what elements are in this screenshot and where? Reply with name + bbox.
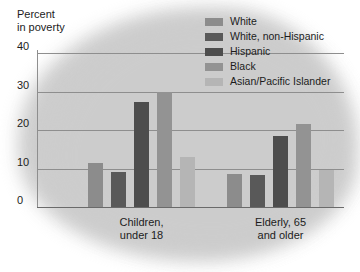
legend-label: Hispanic — [230, 46, 270, 57]
y-tick-label-20: 20 — [17, 118, 29, 129]
legend-item-2: Hispanic — [205, 44, 330, 59]
legend-swatch-icon — [205, 63, 223, 71]
bar-0-2 — [134, 102, 149, 207]
legend-swatch-icon — [205, 18, 223, 26]
bar-1-1 — [250, 175, 265, 207]
bar-1-3 — [296, 124, 311, 207]
legend-swatch-icon — [205, 48, 223, 56]
legend-item-4: Asian/Pacific Islander — [205, 74, 330, 89]
axis-baseline — [37, 207, 344, 208]
bar-1-0 — [227, 174, 242, 207]
poverty-bar-chart: Percent in poverty 403020100 Children, u… — [0, 0, 360, 272]
y-tick-label-0: 0 — [17, 195, 23, 206]
legend-label: Black — [230, 61, 256, 72]
group-label-1: Elderly, 65 and older — [221, 216, 341, 242]
legend-label: White — [230, 16, 257, 27]
legend-label: White, non-Hispanic — [230, 31, 324, 42]
bar-0-1 — [111, 172, 126, 207]
legend-swatch-icon — [205, 33, 223, 41]
legend-item-0: White — [205, 14, 330, 29]
bar-0-3 — [157, 92, 172, 208]
y-axis-title: Percent in poverty — [17, 8, 65, 34]
gridline-30 — [37, 92, 344, 93]
bar-1-2 — [273, 136, 288, 207]
legend: WhiteWhite, non-HispanicHispanicBlackAsi… — [205, 14, 330, 89]
y-tick-label-10: 10 — [17, 157, 29, 168]
legend-item-1: White, non-Hispanic — [205, 29, 330, 44]
bar-0-0 — [88, 163, 103, 207]
y-axis-line — [37, 50, 38, 207]
legend-item-3: Black — [205, 59, 330, 74]
legend-swatch-icon — [205, 78, 223, 86]
y-tick-label-30: 30 — [17, 80, 29, 91]
group-label-0: Children, under 18 — [82, 216, 202, 242]
bar-0-4 — [180, 157, 195, 207]
y-tick-label-40: 40 — [17, 41, 29, 52]
legend-label: Asian/Pacific Islander — [230, 76, 330, 87]
bar-1-4 — [319, 170, 334, 207]
